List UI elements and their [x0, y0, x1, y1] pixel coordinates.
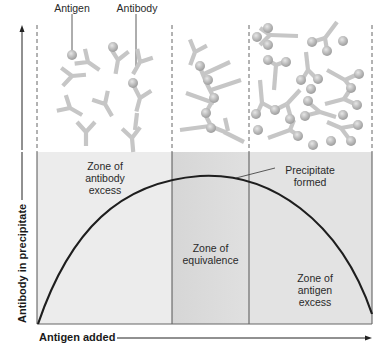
precipitin-diagram: Antigen Antibody Zone of antibody excess…	[0, 0, 391, 361]
molecules-antibody-excess	[57, 42, 153, 153]
zone-equivalence-label: Zone of equivalence	[172, 242, 249, 266]
zone-antibody-excess-label: Zone of antibody excess	[70, 160, 140, 196]
y-axis-arrow	[20, 25, 25, 150]
precipitate-formed-label: Precipitate formed	[277, 164, 343, 188]
y-axis-label: Antibody in precipitate	[16, 204, 28, 323]
antigen-icon	[67, 50, 77, 60]
molecules-equivalence	[180, 40, 244, 142]
antibody-label: Antibody	[113, 2, 161, 14]
x-axis-arrow	[117, 336, 372, 341]
zone-antigen-excess-label: Zone of antigen excess	[275, 272, 355, 308]
antigen-label: Antigen	[52, 2, 92, 14]
x-axis-label: Antigen added	[39, 331, 115, 343]
antigen-icon	[128, 78, 138, 88]
antigen-icon	[108, 42, 118, 52]
molecules-antigen-excess	[251, 22, 364, 150]
